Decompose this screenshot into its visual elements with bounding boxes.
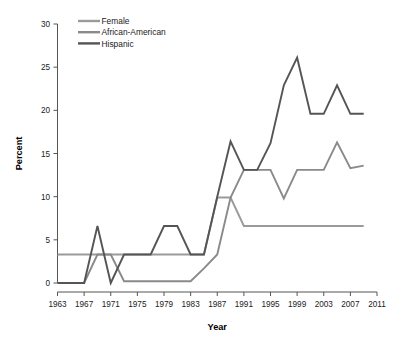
x-tick-label: 1975 [128,300,147,309]
x-tick-label: 1995 [261,300,280,309]
series-group [58,58,364,283]
y-axis: 051015202530 [41,20,58,288]
chart-container: 0510152025301963196719711975197919831987… [0,0,394,344]
y-tick-label: 10 [41,193,51,202]
x-tick-label: 1971 [102,300,121,309]
x-tick-label: 2011 [368,300,386,309]
x-tick-label: 1967 [75,300,94,309]
y-tick-label: 25 [41,63,51,72]
x-tick-label: 2007 [341,300,360,309]
y-tick-label: 0 [45,279,50,288]
x-tick-label: 1987 [208,300,227,309]
x-tick-label: 2003 [315,300,334,309]
legend: FemaleAfrican-AmericanHispanic [78,16,166,48]
y-tick-label: 20 [41,106,51,115]
y-tick-label: 5 [45,236,50,245]
x-tick-label: 1999 [288,300,307,309]
series-line-african-american [58,142,364,283]
legend-label: Hispanic [102,39,134,49]
y-axis-title: Percent [14,137,24,171]
x-axis-title: Year [208,322,228,332]
legend-label: African-American [102,27,167,37]
x-tick-label: 1983 [182,300,201,309]
y-tick-label: 30 [41,20,51,29]
legend-label: Female [102,16,130,26]
x-axis: 1963196719711975197919831987199119951999… [48,292,386,309]
x-tick-label: 1979 [155,300,174,309]
x-tick-label: 1991 [235,300,254,309]
x-tick-label: 1963 [48,300,67,309]
line-chart: 0510152025301963196719711975197919831987… [0,0,394,344]
y-tick-label: 15 [41,150,51,159]
